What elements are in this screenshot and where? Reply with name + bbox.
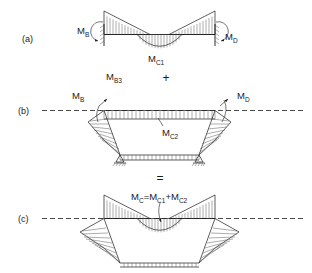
panel-a-left-moment-label: MB [77, 25, 89, 38]
panel-c-label: (c) [18, 214, 29, 224]
plus-operator: + [162, 71, 169, 85]
panel-b-mid-moment-label: MC2 [162, 127, 179, 140]
panel-a-right-moment-label: MD [225, 31, 238, 44]
panel-a-left-hogging-region [104, 11, 150, 35]
panel-c-equation-leader [159, 203, 161, 222]
panel-b: (b) [18, 90, 305, 166]
moment-diagram-figure: (a) [0, 0, 312, 273]
panel-a-mid-moment-label: MC1 [148, 53, 165, 66]
panel-b-right-pin-support [192, 155, 205, 166]
panel-a: (a) [22, 11, 238, 66]
panel-c-sagging-region [137, 219, 182, 233]
panel-a-sagging-region [137, 35, 182, 49]
equals-operator: = [156, 171, 163, 185]
panel-a-right-support [215, 24, 219, 46]
panel-c-equation-label: MC=MC1+MC2 [131, 191, 188, 204]
panel-a-right-hogging-region [169, 11, 215, 35]
panel-a-label: (a) [22, 34, 33, 44]
panel-b-right-moment-label: MD [237, 90, 250, 103]
panel-c-left-leg-region [80, 219, 120, 264]
panel-a-left-support [100, 24, 104, 46]
panel-b-label: (b) [18, 106, 29, 116]
mb3-label: MB3 [106, 71, 122, 84]
panel-b-bottom-chord-region [120, 155, 199, 160]
panel-b-top-chord-region [104, 111, 215, 120]
panel-c-right-leg-region [199, 219, 239, 264]
panel-c: (c) [18, 191, 305, 267]
panel-c-bottom-chord-region [120, 263, 199, 267]
panel-b-left-moment-label: MB [72, 90, 84, 103]
